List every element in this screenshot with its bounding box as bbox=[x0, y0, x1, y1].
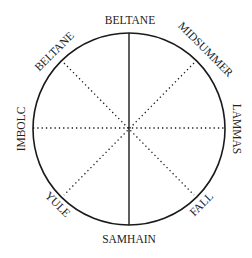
wheel-diagram: BELTANE SAMHAIN IMBOLC LAMMAS BELTANE MI… bbox=[0, 0, 252, 258]
label-right: LAMMAS bbox=[231, 104, 243, 154]
label-bottom-right: FALL bbox=[187, 190, 215, 218]
label-bottom: SAMHAIN bbox=[102, 233, 156, 245]
label-top: BELTANE bbox=[105, 14, 155, 26]
label-top-right: MIDSUMMER bbox=[176, 19, 236, 79]
label-top-left: BELTANE bbox=[32, 29, 76, 73]
label-left: IMBOLC bbox=[15, 106, 27, 151]
